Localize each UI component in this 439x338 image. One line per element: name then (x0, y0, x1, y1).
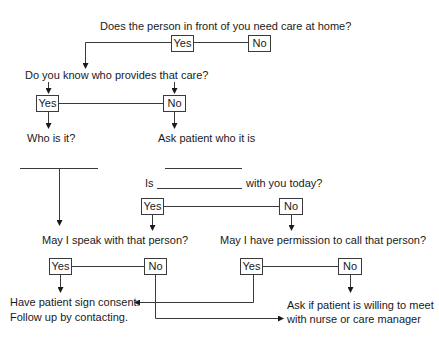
question-needs-home-care: Does the person in front of you need car… (100, 20, 351, 33)
q2-no-box[interactable]: No (163, 95, 186, 112)
statement-who-is-it: Who is it? (27, 132, 75, 145)
q2-yes-box[interactable]: Yes (36, 95, 59, 112)
question-know-caregiver: Do you know who provides that care? (25, 69, 208, 82)
outcome-sign-consent-line1: Have patient sign consent. (10, 296, 140, 309)
q3-no-box[interactable]: No (279, 198, 303, 215)
outcome-meet-nurse-line1: Ask if patient is willing to meet (287, 299, 434, 312)
q1-no-box[interactable]: No (248, 35, 271, 52)
q5-yes-box[interactable]: Yes (240, 258, 263, 275)
flowchart-canvas: Does the person in front of you need car… (0, 0, 439, 338)
q4-no-box[interactable]: No (144, 258, 167, 275)
question-with-you-today: with you today? (246, 177, 322, 190)
question-permission-to-call: May I have permission to call that perso… (220, 234, 426, 247)
q5-no-box[interactable]: No (338, 258, 362, 275)
q3-yes-box[interactable]: Yes (141, 198, 164, 215)
statement-ask-patient: Ask patient who it is (158, 132, 255, 145)
question-speak-with-person: May I speak with that person? (42, 234, 188, 247)
question-is-prefix: Is (145, 177, 154, 190)
outcome-meet-nurse-line2: with nurse or care manager (287, 313, 421, 326)
flowchart-connectors (0, 0, 439, 338)
q4-yes-box[interactable]: Yes (49, 258, 72, 275)
outcome-sign-consent-line2: Follow up by contacting. (10, 311, 128, 324)
q1-yes-box[interactable]: Yes (171, 35, 194, 52)
